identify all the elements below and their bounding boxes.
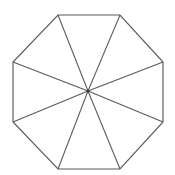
octagon-figure-svg — [0, 0, 175, 175]
figure-canvas — [0, 0, 175, 175]
center-point-dot — [86, 89, 89, 92]
